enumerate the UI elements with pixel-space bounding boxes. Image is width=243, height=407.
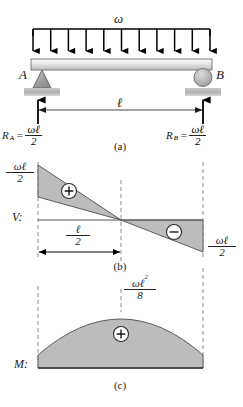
panel-c-caption: (c) <box>100 380 140 391</box>
moment-peak-label: ωℓ2 8 <box>124 277 156 301</box>
half-span-denominator: 2 <box>66 236 90 247</box>
shear-minus-sign-badge <box>167 225 182 240</box>
reaction-b-equals: = <box>180 130 187 141</box>
distributed-load-arrows <box>33 29 210 51</box>
reaction-a-value: ωℓ 2 <box>25 124 41 147</box>
moment-plus-sign-badge <box>114 327 129 342</box>
reaction-a-denominator: 2 <box>25 136 41 147</box>
panel-b-caption: (b) <box>100 261 140 272</box>
panel-b-shear-diagram <box>38 162 203 262</box>
reaction-b-value: ωℓ 2 <box>189 124 205 147</box>
beam-diagram-figure: ω A B ℓ RA = ωℓ 2 RB = ωℓ 2 (a) ωℓ 2 V: … <box>0 0 243 407</box>
half-span-label: ℓ 2 <box>66 224 90 247</box>
figure-canvas <box>0 0 243 407</box>
pin-support-triangle <box>33 70 51 88</box>
span-length-label: ℓ <box>117 96 122 109</box>
roller-support-ground <box>185 88 221 96</box>
shear-negative-area <box>121 220 203 252</box>
shear-plus-sign-badge <box>62 184 77 199</box>
moment-peak-numerator-base: ωℓ <box>132 277 144 289</box>
panel-c-moment-diagram <box>38 268 203 368</box>
panel-a-loaded-beam <box>24 29 221 124</box>
shear-left-value-label: ωℓ 2 <box>6 161 34 184</box>
shear-left-value-denominator: 2 <box>6 173 34 184</box>
shear-right-value-label: ωℓ 2 <box>208 235 236 258</box>
moment-peak-denominator: 8 <box>124 290 156 301</box>
moment-peak-exponent: 2 <box>144 273 148 281</box>
roller-support-circle <box>194 69 212 87</box>
reaction-a-subscript: A <box>10 134 14 142</box>
shear-axis-label: V: <box>12 211 23 223</box>
shear-positive-area <box>38 165 121 220</box>
reaction-a-equals: = <box>16 130 23 141</box>
reaction-b-equation: RB = ωℓ 2 <box>166 124 206 147</box>
load-symbol-label: ω <box>114 12 123 25</box>
reaction-b-denominator: 2 <box>189 136 205 147</box>
support-a-label: A <box>19 68 27 81</box>
beam-body <box>31 59 212 70</box>
reaction-b-subscript: B <box>174 134 178 142</box>
support-b-label: B <box>216 68 224 81</box>
pin-support-ground <box>24 88 60 96</box>
reaction-a-equation: RA = ωℓ 2 <box>2 124 42 147</box>
shear-right-value-denominator: 2 <box>208 247 236 258</box>
moment-axis-label: M: <box>14 358 28 370</box>
reaction-a-symbol: R <box>2 130 9 141</box>
moment-peak-numerator: ωℓ2 <box>124 277 156 290</box>
reaction-b-symbol: R <box>166 130 173 141</box>
panel-a-caption: (a) <box>100 141 140 152</box>
